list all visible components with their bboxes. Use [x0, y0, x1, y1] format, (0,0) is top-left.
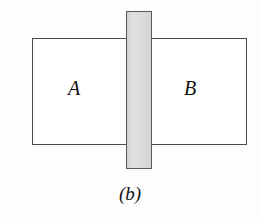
chamber-label-a: A	[68, 78, 80, 98]
figure-diagram: A B (b)	[0, 0, 260, 218]
chamber-label-b: B	[184, 78, 196, 98]
vertical-partition-bar	[126, 11, 152, 169]
figure-caption: (b)	[0, 184, 260, 203]
